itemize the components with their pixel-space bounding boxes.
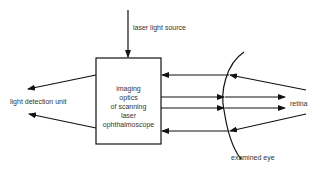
- box-label-line1: imaging: [116, 85, 141, 93]
- box-label-line2: optics: [119, 94, 138, 102]
- detector-arrow-lower: [29, 114, 96, 128]
- box-label-line4: laser: [121, 112, 137, 119]
- detector-arrow-upper: [28, 75, 96, 89]
- retina-label: retina: [290, 100, 308, 107]
- box-label-line5: ophthalmoscope: [103, 121, 154, 129]
- examined-eye-label: examined eye: [231, 154, 275, 162]
- imaging-optics-box: [96, 58, 161, 144]
- retina-reflection-lower: [230, 114, 306, 131]
- box-label-line3: of scanning: [111, 103, 147, 111]
- eye-lens-arc: [223, 52, 244, 159]
- sloa-optics-diagram: laser light source imaging optics of sca…: [0, 0, 326, 173]
- laser-source-label: laser light source: [133, 24, 186, 32]
- detector-label: light detection unit: [10, 98, 66, 106]
- retina-reflection-upper: [230, 75, 306, 90]
